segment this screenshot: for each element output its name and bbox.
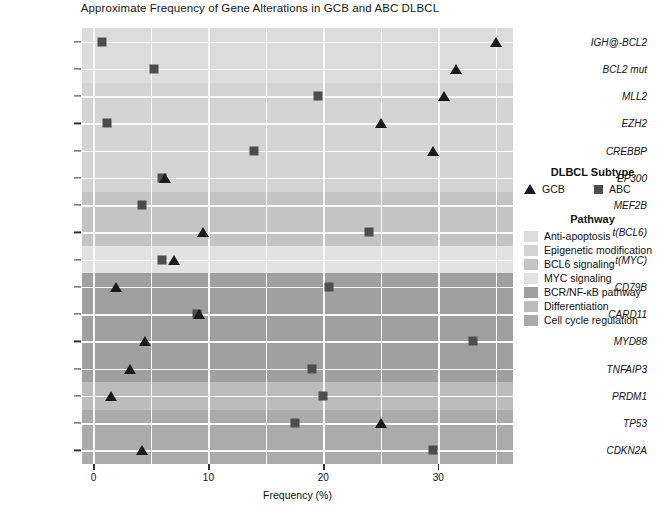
x-axis-tick-mark [93, 464, 94, 470]
grid-line-vertical [496, 28, 497, 464]
x-axis-tick-label: 0 [91, 472, 97, 483]
x-axis-tick-label: 30 [433, 472, 444, 483]
grid-line-vertical [208, 28, 209, 464]
y-axis-tick-label: TP53 [623, 418, 647, 429]
legend-subtype-gcb[interactable]: GCB [524, 183, 590, 195]
data-point-triangle [136, 445, 148, 455]
grid-line-horizontal [82, 69, 513, 70]
data-point-abc[interactable] [307, 364, 316, 373]
grid-line-vertical [151, 28, 152, 464]
data-point-abc[interactable] [290, 419, 299, 428]
grid-line-horizontal [82, 151, 513, 152]
grid-line-horizontal [82, 260, 513, 261]
legend-subtype-label: ABC [609, 183, 631, 195]
data-point-abc[interactable] [103, 119, 112, 128]
data-point-abc[interactable] [365, 228, 374, 237]
legend-pathway-title: Pathway [524, 213, 661, 225]
y-axis-tick-mark [74, 41, 81, 42]
data-point-triangle [168, 255, 180, 265]
pathway-band [82, 192, 513, 247]
x-axis-tick-mark [323, 464, 324, 470]
data-point-abc[interactable] [325, 282, 334, 291]
y-axis-tick-label: TNFAIP3 [607, 363, 647, 374]
y-axis-tick-label: EZH2 [621, 118, 647, 129]
grid-line-horizontal [82, 369, 513, 370]
y-axis-tick-mark [74, 450, 81, 451]
pathway-color-swatch [524, 259, 538, 270]
data-point-triangle [438, 91, 450, 101]
data-point-abc[interactable] [97, 37, 106, 46]
plot-area [82, 28, 513, 464]
pathway-band [82, 28, 513, 83]
y-axis-tick-mark [74, 123, 81, 124]
y-axis-tick-mark [74, 205, 81, 206]
pathway-color-swatch [524, 231, 538, 242]
chart-title: Approximate Frequency of Gene Alteration… [0, 2, 520, 14]
data-point-triangle [159, 173, 171, 183]
grid-line-vertical [93, 28, 94, 464]
data-point-triangle [193, 309, 205, 319]
y-axis-tick-label: PRDM1 [612, 390, 647, 401]
grid-line-vertical [381, 28, 382, 464]
data-point-triangle [450, 64, 462, 74]
pathway-band [82, 273, 513, 382]
y-axis-tick-mark [74, 177, 81, 178]
data-point-abc[interactable] [150, 64, 159, 73]
x-axis-title: Frequency (%) [82, 489, 513, 501]
y-axis-tick-mark [74, 368, 81, 369]
y-axis-tick-label: t(BCL6) [613, 227, 647, 238]
grid-line-horizontal [82, 42, 513, 43]
x-axis-tick-mark [438, 464, 439, 470]
data-point-triangle [197, 227, 209, 237]
x-axis-tick-label: 20 [318, 472, 329, 483]
grid-line-horizontal [82, 178, 513, 179]
triangle-icon [524, 184, 536, 194]
data-point-triangle [124, 364, 136, 374]
pathway-color-swatch [524, 287, 538, 298]
y-axis-tick-mark [74, 314, 81, 315]
data-point-triangle [110, 282, 122, 292]
grid-line-horizontal [82, 287, 513, 288]
y-axis-tick-label: CD79B [615, 281, 647, 292]
legend-pathway-label: Differentiation [544, 300, 609, 312]
y-axis-tick-mark [74, 150, 81, 151]
y-axis-tick-mark [74, 395, 81, 396]
y-axis-tick-mark [74, 68, 81, 69]
y-axis-tick-label: EP300 [617, 172, 647, 183]
square-icon [594, 185, 603, 194]
y-axis-tick-mark [74, 96, 81, 97]
legend-pathway-label: BCL6 signaling [544, 258, 615, 270]
legend: DLBCL Subtype GCBABC Pathway Anti-apopto… [524, 166, 661, 328]
y-axis-tick-label: MLL2 [622, 91, 647, 102]
pathway-color-swatch [524, 273, 538, 284]
grid-line-horizontal [82, 314, 513, 315]
chart-root: Approximate Frequency of Gene Alteration… [0, 0, 661, 517]
data-point-abc[interactable] [428, 446, 437, 455]
data-point-triangle [490, 37, 502, 47]
y-axis-tick-mark [74, 286, 81, 287]
grid-line-horizontal [82, 123, 513, 124]
y-axis-tick-label: CARD11 [608, 309, 647, 320]
y-axis-tick-label: MYD88 [614, 336, 647, 347]
grid-line-vertical [266, 28, 267, 464]
data-point-triangle [139, 336, 151, 346]
grid-line-horizontal [82, 232, 513, 233]
pathway-color-swatch [524, 301, 538, 312]
grid-line-horizontal [82, 205, 513, 206]
y-axis-tick-label: MEF2B [614, 200, 647, 211]
y-axis-tick-label: IGH@-BCL2 [591, 36, 647, 47]
y-axis-tick-label: CDKN2A [606, 445, 647, 456]
y-axis-tick-mark [74, 232, 81, 233]
y-axis-tick-label: BCL2 mut [603, 63, 647, 74]
data-point-abc[interactable] [250, 146, 259, 155]
data-point-abc[interactable] [468, 337, 477, 346]
data-point-abc[interactable] [158, 255, 167, 264]
legend-subtype-abc[interactable]: ABC [594, 183, 660, 195]
x-axis-tick-mark [208, 464, 209, 470]
y-axis-tick-label: t(MYC) [615, 254, 647, 265]
y-axis-tick-mark [74, 259, 81, 260]
pathway-color-swatch [524, 245, 538, 256]
data-point-abc[interactable] [137, 201, 146, 210]
data-point-abc[interactable] [313, 92, 322, 101]
data-point-abc[interactable] [319, 391, 328, 400]
